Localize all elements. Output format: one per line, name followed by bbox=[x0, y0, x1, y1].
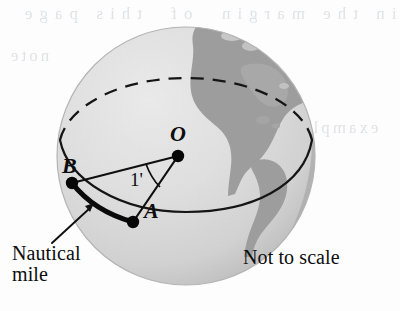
label-point-o: O bbox=[170, 122, 186, 145]
nautical-mile-figure: in the margin of this page note example bbox=[0, 0, 400, 311]
label-nautical-mile: Nautical mile bbox=[12, 243, 81, 285]
point-o-dot bbox=[172, 150, 184, 162]
point-b-dot bbox=[66, 177, 78, 189]
label-point-a: A bbox=[144, 199, 159, 222]
label-point-b: B bbox=[62, 154, 77, 177]
label-not-to-scale: Not to scale bbox=[243, 247, 340, 268]
label-angle-one-minute: 1' bbox=[130, 170, 143, 190]
point-a-dot bbox=[127, 216, 139, 228]
